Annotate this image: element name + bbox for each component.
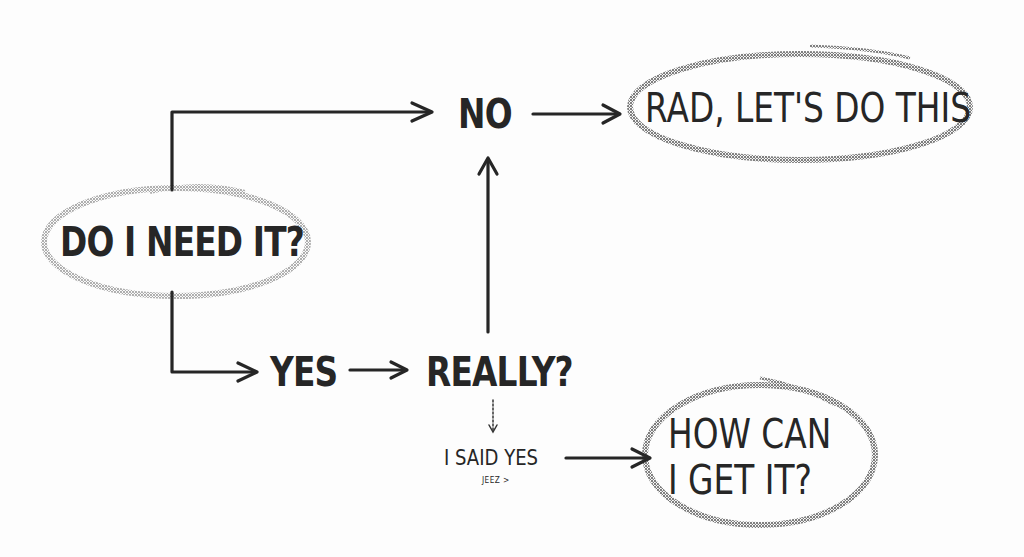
- node-i-said-yes: I SAID YES: [444, 447, 538, 469]
- node-jeez-note: JEEZ >: [482, 476, 510, 485]
- node-yes: YES: [270, 352, 337, 392]
- node-rad-lets-do-this: RAD, LET'S DO THIS: [645, 88, 971, 128]
- node-no: NO: [458, 94, 512, 134]
- flowchart-canvas: DO I NEED IT? NO RAD, LET'S DO THIS YES …: [0, 0, 1024, 557]
- node-how-can-line1: HOW CAN: [668, 414, 831, 454]
- node-do-i-need-it: DO I NEED IT?: [60, 222, 304, 262]
- flowchart-connectors: [0, 0, 1024, 557]
- edge-start-to-no: [172, 112, 430, 190]
- node-how-can-line2: I GET IT?: [668, 460, 812, 500]
- edge-start-to-yes: [172, 292, 255, 372]
- node-really: REALLY?: [426, 352, 573, 392]
